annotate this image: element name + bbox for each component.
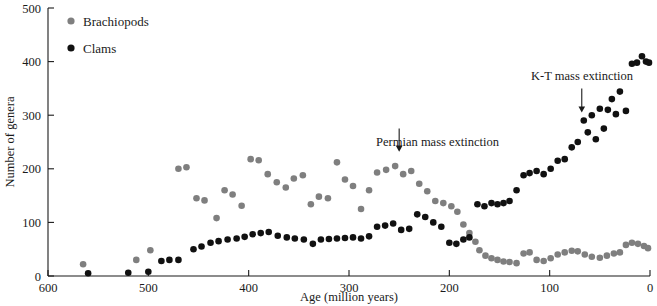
y-tick-label-100: 100 xyxy=(22,216,41,230)
data-point xyxy=(221,187,228,194)
data-point xyxy=(645,245,652,252)
data-point xyxy=(175,166,182,173)
data-point xyxy=(350,234,357,241)
x-tick-label-400: 400 xyxy=(239,281,258,295)
data-point xyxy=(318,236,325,243)
data-point xyxy=(639,53,646,60)
data-point xyxy=(257,230,264,237)
data-point xyxy=(533,168,540,175)
data-point xyxy=(424,188,431,195)
data-point xyxy=(635,241,642,248)
data-point xyxy=(482,252,489,259)
x-axis-title: Age (million years) xyxy=(300,290,398,304)
data-point xyxy=(233,235,240,242)
data-point xyxy=(540,171,547,178)
data-point xyxy=(494,257,501,264)
data-point xyxy=(147,247,154,254)
data-point xyxy=(310,241,317,248)
data-point xyxy=(198,243,205,250)
data-point xyxy=(215,238,222,245)
data-point xyxy=(476,247,483,254)
data-point xyxy=(358,206,365,213)
data-point xyxy=(308,201,315,208)
data-point xyxy=(175,257,182,264)
data-point xyxy=(414,211,421,218)
data-point xyxy=(80,261,87,268)
data-point xyxy=(506,198,513,205)
data-point xyxy=(207,239,214,246)
y-tick-label-200: 200 xyxy=(22,162,41,176)
scatter-plot: 01002003004005006005004003002001000 Perm… xyxy=(0,0,657,306)
data-point xyxy=(264,171,271,178)
data-point xyxy=(540,258,547,265)
data-point xyxy=(520,172,527,179)
y-axis-title: Number of genera xyxy=(3,96,17,187)
data-point xyxy=(454,208,461,215)
data-point xyxy=(533,257,540,264)
x-tick-label-0: 0 xyxy=(647,281,653,295)
annotation-arrow-head-1 xyxy=(578,107,585,113)
data-point xyxy=(611,250,618,257)
data-point xyxy=(574,139,581,146)
data-point xyxy=(366,187,373,194)
data-point xyxy=(526,249,533,256)
legend-label-brachiopods: Brachiopods xyxy=(83,14,149,29)
x-tick-label-500: 500 xyxy=(139,281,158,295)
data-point xyxy=(366,233,373,240)
data-point xyxy=(513,187,520,194)
data-point xyxy=(589,112,596,119)
data-point xyxy=(229,191,236,198)
series-brachiopods xyxy=(80,156,651,268)
data-point xyxy=(440,200,447,207)
y-tick-label-500: 500 xyxy=(22,2,41,16)
data-point xyxy=(561,249,568,256)
data-point xyxy=(494,201,501,208)
data-point xyxy=(224,236,231,243)
data-point xyxy=(500,258,507,265)
data-point xyxy=(422,214,429,221)
legend-marker-brachiopods xyxy=(67,17,74,24)
data-point xyxy=(374,223,381,230)
data-point xyxy=(488,200,495,207)
series-clams xyxy=(85,53,652,277)
legend-group: BrachiopodsClams xyxy=(67,14,148,56)
data-point xyxy=(255,157,262,164)
ticks-group: 01002003004005006005004003002001000 xyxy=(22,2,653,296)
data-point xyxy=(466,234,473,241)
data-point xyxy=(342,176,349,183)
data-point xyxy=(334,159,341,166)
data-point xyxy=(190,246,197,253)
data-point xyxy=(432,198,439,205)
data-point xyxy=(580,117,587,124)
data-point xyxy=(601,125,608,132)
x-tick-label-200: 200 xyxy=(440,281,459,295)
data-point xyxy=(183,164,190,171)
data-point xyxy=(547,255,554,262)
legend-label-clams: Clams xyxy=(83,41,116,56)
axes-group xyxy=(48,8,650,276)
data-point xyxy=(488,255,495,262)
data-point xyxy=(554,157,561,164)
data-point xyxy=(593,136,600,143)
data-point xyxy=(283,234,290,241)
data-point xyxy=(406,226,413,233)
data-point xyxy=(265,229,272,236)
data-point xyxy=(125,269,132,276)
data-point xyxy=(568,144,575,151)
data-point xyxy=(247,156,254,163)
data-point xyxy=(282,184,289,191)
data-point xyxy=(526,170,533,177)
data-point xyxy=(617,88,624,95)
data-point xyxy=(133,257,140,264)
data-point xyxy=(193,195,200,202)
x-tick-label-100: 100 xyxy=(540,281,559,295)
data-point xyxy=(520,250,527,257)
data-point xyxy=(438,223,445,230)
data-point xyxy=(561,156,568,163)
data-point xyxy=(390,220,397,227)
data-point xyxy=(334,235,341,242)
data-point xyxy=(613,111,620,118)
data-point xyxy=(584,129,591,136)
data-point xyxy=(292,235,299,242)
data-point xyxy=(609,96,616,103)
